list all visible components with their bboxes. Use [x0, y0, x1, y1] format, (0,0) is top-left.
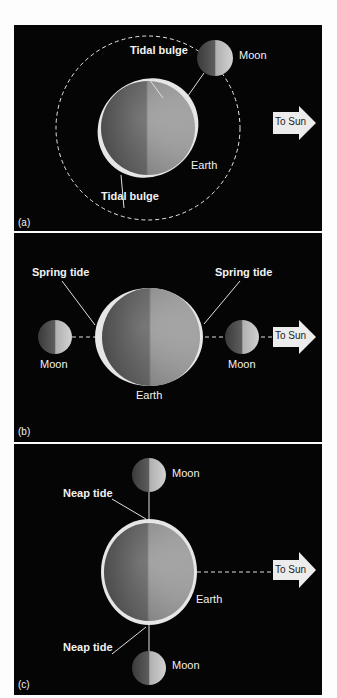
panel-b-spring-tides: Spring tide Spring tide Moon Moon Earth …	[14, 233, 322, 442]
leader-neap-tide-bottom	[112, 627, 146, 654]
earth-moon-line	[185, 73, 204, 100]
leader-neap-tide-top	[112, 499, 146, 519]
panel-letter-b: (b)	[18, 427, 30, 437]
label-earth: Earth	[196, 594, 222, 605]
panel-letter-c: (c)	[18, 680, 30, 690]
label-neap-tide-top: Neap tide	[63, 488, 113, 499]
label-spring-tide-left: Spring tide	[32, 267, 89, 278]
to-sun-label: To Sun	[275, 117, 303, 127]
panel-c-neap-tides: Neap tide Moon Earth Neap tide Moon To S…	[14, 444, 322, 695]
label-spring-tide-right: Spring tide	[215, 267, 272, 278]
leader-spring-tide-right	[204, 281, 240, 324]
moon-left-icon	[38, 320, 72, 354]
label-earth: Earth	[136, 390, 162, 401]
label-neap-tide-bottom: Neap tide	[63, 642, 113, 653]
to-sun-arrow: To Sun	[273, 320, 317, 354]
moon-icon	[197, 40, 233, 76]
to-sun-label: To Sun	[275, 331, 303, 341]
moon-right-icon	[225, 320, 259, 354]
to-sun-arrow: To Sun	[273, 106, 317, 140]
panel-letter-a: (a)	[18, 218, 30, 228]
label-earth: Earth	[191, 160, 217, 171]
moon-top-icon	[132, 458, 166, 492]
label-moon-right: Moon	[228, 359, 256, 370]
label-moon-left: Moon	[40, 359, 68, 370]
panel-a-tidal-bulges: Tidal bulge Moon Earth Tidal bulge To Su…	[14, 25, 322, 231]
leader-spring-tide-left	[62, 281, 95, 325]
to-sun-label: To Sun	[275, 565, 303, 575]
moon-bottom-icon	[132, 651, 166, 685]
to-sun-arrow: To Sun	[273, 552, 317, 586]
label-moon-bottom: Moon	[172, 660, 200, 671]
label-moon: Moon	[239, 50, 267, 61]
label-tidal-bulge-top: Tidal bulge	[130, 45, 188, 56]
label-tidal-bulge-bottom: Tidal bulge	[101, 191, 159, 202]
label-moon-top: Moon	[172, 468, 200, 479]
